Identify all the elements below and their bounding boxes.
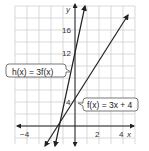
h-label: h(x) = 3f(x)	[12, 67, 53, 77]
callout-h: h(x) = 3f(x)	[6, 64, 71, 77]
x-tick-label: 4	[119, 130, 124, 139]
f-label: f(x) = 3x + 4	[87, 100, 133, 110]
y-tick-label: 12	[62, 49, 71, 58]
y-tick-label: 16	[62, 26, 71, 35]
callout-f: f(x) = 3x + 4	[78, 98, 138, 111]
coordinate-graph: −4 2 4 x 16 12 4 y h(x) = 3f(x) f(x) = 3…	[0, 0, 149, 151]
x-tick-label: 2	[95, 130, 100, 139]
x-tick-label: −4	[20, 130, 30, 139]
